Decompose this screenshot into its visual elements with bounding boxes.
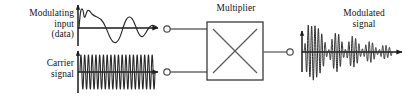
modulated-waveform <box>304 25 392 80</box>
modulating-input-terminal[interactable] <box>164 26 170 32</box>
multiplier-block[interactable] <box>207 22 263 80</box>
output-terminal[interactable] <box>287 49 293 55</box>
am-block-diagram: Modulating input (data) Carrier signal M… <box>0 0 412 96</box>
carrier-input-terminal[interactable] <box>164 69 170 75</box>
modulating-input-waveform <box>79 9 157 43</box>
diagram-canvas <box>0 0 412 96</box>
carrier-waveform <box>80 55 155 89</box>
